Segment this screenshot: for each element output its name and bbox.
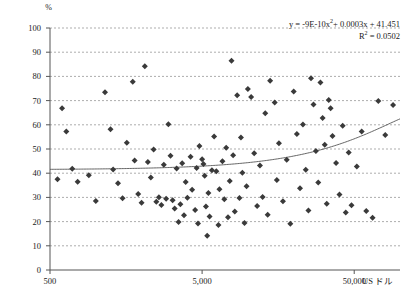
data-point [219, 158, 225, 164]
data-point [179, 160, 185, 166]
data-point [196, 143, 202, 149]
data-point [234, 92, 240, 98]
data-point [303, 167, 309, 173]
data-point [115, 180, 121, 186]
data-point [317, 79, 323, 85]
y-tick-label: 0 [11, 266, 41, 275]
data-point [375, 98, 381, 104]
data-point [216, 186, 222, 192]
data-point [363, 208, 369, 214]
data-point [108, 126, 114, 132]
data-point [248, 94, 254, 100]
data-point [359, 129, 365, 135]
data-point [238, 134, 244, 140]
data-point [370, 215, 376, 221]
data-point [346, 149, 352, 155]
data-point [236, 195, 242, 201]
x-tick-label: 5,000 [193, 277, 212, 286]
scatter-chart: % y = -9E-10x2+ 0.0003x + 41.451 R2 = 0.… [0, 0, 411, 301]
data-point [242, 220, 248, 226]
data-point [324, 201, 330, 207]
data-point [232, 208, 238, 214]
data-point [267, 78, 273, 84]
data-point [63, 129, 69, 135]
data-point [223, 145, 229, 151]
data-point [227, 178, 233, 184]
data-point [390, 102, 396, 108]
x-axis-unit-label: US ドル [362, 277, 393, 286]
trendline [50, 119, 400, 169]
data-point [209, 167, 215, 173]
data-point [204, 233, 210, 239]
data-point [315, 179, 321, 185]
data-point [349, 202, 355, 208]
data-point [274, 177, 280, 183]
y-tick-label: 60 [11, 121, 41, 130]
data-point [280, 198, 286, 204]
data-point [311, 101, 317, 107]
data-point [262, 110, 268, 116]
data-point [291, 88, 297, 94]
data-point [328, 105, 334, 111]
data-point [308, 75, 314, 81]
data-point [163, 196, 169, 202]
data-point [192, 207, 198, 213]
data-point [211, 133, 217, 139]
data-point [59, 105, 65, 111]
data-point [343, 209, 349, 215]
data-point [93, 198, 99, 204]
y-tick-label: 70 [11, 97, 41, 106]
data-point [239, 170, 245, 176]
y-tick-label: 100 [11, 24, 41, 33]
data-point [145, 159, 151, 165]
data-point [320, 115, 326, 121]
data-point [181, 212, 187, 218]
data-point [215, 222, 221, 228]
data-point [142, 63, 148, 69]
data-point [161, 162, 167, 168]
data-point [168, 153, 174, 159]
data-point [260, 194, 266, 200]
data-point [135, 191, 141, 197]
data-point [340, 123, 346, 129]
data-point [225, 214, 231, 220]
data-point [276, 140, 282, 146]
data-point [170, 197, 176, 203]
data-point [199, 156, 205, 162]
data-point [174, 166, 180, 172]
data-point [130, 79, 136, 85]
data-point [139, 200, 145, 206]
data-point [151, 146, 157, 152]
data-point [272, 100, 278, 106]
data-point [244, 183, 250, 189]
y-tick-label: 80 [11, 72, 41, 81]
data-point [148, 175, 154, 181]
data-point [75, 179, 81, 185]
data-point [203, 204, 209, 210]
x-tick-label: 500 [44, 277, 57, 286]
y-tick-label: 30 [11, 193, 41, 202]
data-point [265, 212, 271, 218]
data-point [132, 158, 138, 164]
data-point [172, 206, 178, 212]
y-tick-label: 90 [11, 48, 41, 57]
data-point [287, 221, 293, 227]
data-point [54, 176, 60, 182]
data-point [124, 140, 130, 146]
data-point [297, 185, 303, 191]
y-tick-label: 20 [11, 218, 41, 227]
y-tick-label: 10 [11, 242, 41, 251]
data-point [382, 132, 388, 138]
data-point [333, 160, 339, 166]
data-point [245, 86, 251, 92]
data-point [165, 121, 171, 127]
data-point [188, 154, 194, 160]
data-point [251, 150, 257, 156]
data-point [194, 165, 200, 171]
data-point [69, 166, 75, 172]
data-point [257, 162, 263, 168]
data-point [326, 97, 332, 103]
data-point [120, 195, 126, 201]
y-tick-label: 40 [11, 169, 41, 178]
data-point [177, 201, 183, 207]
